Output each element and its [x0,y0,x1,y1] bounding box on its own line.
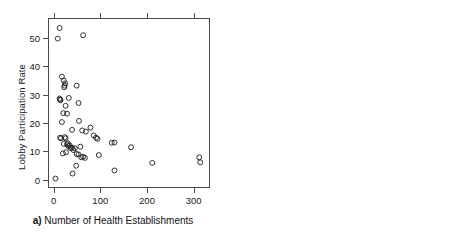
panel-b: Lobby Participation Rate (Rank Order) 12… [226,0,451,236]
figure-container: Lobby Participation Rate 0100200300 0102… [0,0,451,236]
panel-a: Lobby Participation Rate 0100200300 0102… [0,0,226,236]
panel-a-caption: a) Number of Health Establishments [33,215,194,226]
panel-a-caption-tag: a) [33,215,42,226]
panel-a-caption-text: Number of Health Establishments [42,215,194,226]
panel-a-plot-area [48,18,210,188]
panel-a-scatter-points [49,19,209,187]
